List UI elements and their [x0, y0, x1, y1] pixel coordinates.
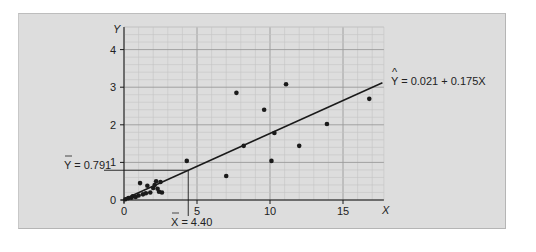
y-tick-label: 3 — [110, 81, 116, 93]
mean-x-label: X = 4.40 — [171, 216, 212, 228]
y-tick-label: 1 — [110, 156, 116, 168]
equation-label: Y = 0.021 + 0.175X — [391, 75, 486, 87]
data-point — [234, 91, 239, 96]
y-axis-label: Y — [113, 23, 121, 35]
regression-line — [124, 83, 382, 199]
mean-x-annotation: X = 4.40 — [171, 213, 212, 228]
x-tick-label: 15 — [337, 205, 349, 217]
data-point — [367, 97, 372, 102]
data-point — [154, 179, 159, 184]
data-point — [148, 190, 153, 195]
grid — [124, 27, 384, 200]
y-tick-label: 2 — [110, 119, 116, 131]
data-point — [325, 122, 330, 127]
scatter-chart: Y X ^ Y = 0.021 + 0.175X Y = 0.791 X = 4… — [0, 0, 536, 252]
x-axis-label: X — [381, 204, 390, 216]
data-point — [284, 82, 289, 87]
data-point — [269, 159, 274, 164]
y-tick-label: 0 — [110, 194, 116, 206]
data-point — [224, 174, 229, 179]
data-point — [184, 159, 189, 164]
data-point — [160, 190, 165, 195]
mean-y-label: Y = 0.791 — [64, 159, 111, 171]
data-point — [138, 181, 143, 186]
x-tick-label: 10 — [264, 205, 276, 217]
data-point — [144, 191, 149, 196]
regression-equation: ^ Y = 0.021 + 0.175X — [391, 66, 486, 87]
y-tick-label: 4 — [110, 44, 116, 56]
data-point — [262, 107, 267, 112]
x-tick-label: 5 — [194, 205, 200, 217]
x-tick-label: 0 — [121, 205, 127, 217]
mean-y-annotation: Y = 0.791 — [64, 156, 111, 171]
data-point — [297, 144, 302, 149]
